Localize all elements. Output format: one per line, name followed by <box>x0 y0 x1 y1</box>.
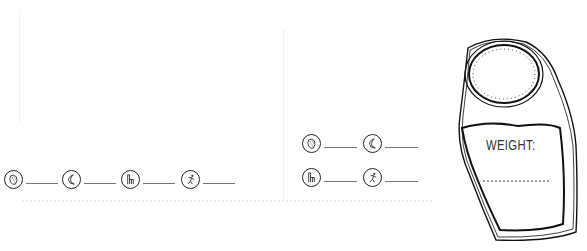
food-entry-line[interactable] <box>26 183 58 184</box>
tracker-grid-right-row2 <box>302 168 418 187</box>
exercise-icon <box>181 170 200 189</box>
exercise-entry-line[interactable] <box>385 181 418 182</box>
sleep-moon-icon <box>363 134 382 153</box>
food-icon <box>4 170 23 189</box>
dotted-guide-left <box>19 10 20 125</box>
tracker-row-left <box>4 170 235 189</box>
toilet-icon <box>121 170 140 189</box>
tracker-grid-right-row1 <box>302 134 418 153</box>
food-entry-line[interactable] <box>324 147 357 148</box>
dotted-guide-bottom <box>22 200 432 202</box>
exercise-entry-line[interactable] <box>203 183 235 184</box>
sleep-moon-icon <box>62 170 81 189</box>
toilet-icon <box>302 168 321 187</box>
food-icon <box>302 134 321 153</box>
toilet-entry-line[interactable] <box>143 183 175 184</box>
sleep-entry-line[interactable] <box>84 183 116 184</box>
weight-entry-line[interactable] <box>483 180 549 182</box>
dotted-guide-middle <box>283 30 284 200</box>
toilet-entry-line[interactable] <box>324 181 357 182</box>
exercise-icon <box>363 168 382 187</box>
sleep-entry-line[interactable] <box>385 147 418 148</box>
weight-label: WEIGHT: <box>486 136 536 153</box>
